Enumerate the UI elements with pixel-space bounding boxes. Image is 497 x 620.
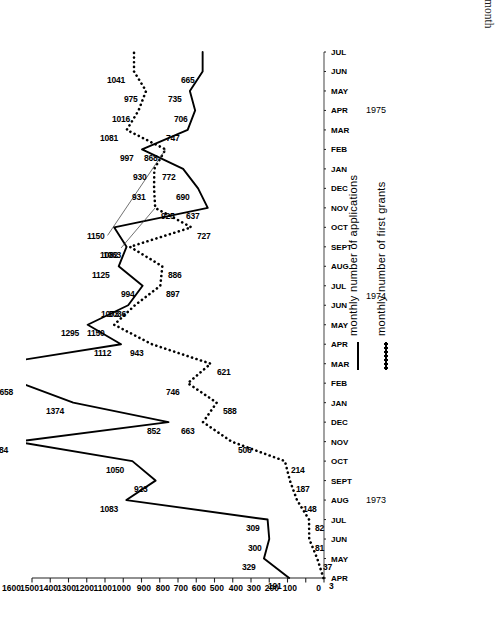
first-grants-value-label: 506 <box>238 445 252 455</box>
y-axis-tick-label: 700 <box>174 583 188 593</box>
first-grants-value-label: 1150 <box>87 328 105 338</box>
chart-axes <box>32 52 326 583</box>
x-axis-month-label: NOV <box>331 437 348 446</box>
first-grants-value-label: 943 <box>130 348 144 358</box>
x-axis-month-label: MAY <box>331 86 348 95</box>
first-grants-value-label: 930 <box>133 172 147 182</box>
first-grants-value-label: 81 <box>315 543 324 553</box>
chart-series <box>26 52 323 578</box>
y-axis-tick-label: 400 <box>228 583 242 593</box>
applications-value-label: 923 <box>134 484 148 494</box>
x-axis-month-label: MAR <box>331 359 349 368</box>
y-axis-tick-label: 600 <box>192 583 206 593</box>
x-axis-month-label: MAY <box>331 554 348 563</box>
y-axis-tick-label: 1300 <box>57 583 76 593</box>
first-grants-value-label: 82 <box>315 523 324 533</box>
applications-value-label: 994 <box>121 289 135 299</box>
x-axis-month-label: JUL <box>331 281 346 290</box>
applications-value-label: 1112 <box>94 348 111 358</box>
applications-value-label: 772 <box>162 172 176 182</box>
x-axis-year-label: 1973 <box>366 495 386 505</box>
x-axis-month-label: JUN <box>331 535 347 544</box>
x-axis-month-label: NOV <box>331 203 348 212</box>
applications-value-label: 329 <box>242 562 256 572</box>
first-grants-value-label: 3 <box>329 582 334 592</box>
applications-value-label: 706 <box>174 114 188 124</box>
x-axis-month-label: APR <box>331 340 348 349</box>
x-axis-month-label: JUL <box>331 515 346 524</box>
legend-label-applications: monthly number of applications <box>347 175 359 336</box>
line-chart: 1913293003091083923105016848521374165817… <box>26 44 326 584</box>
applications-value-label: 852 <box>147 426 161 436</box>
legend-label-first-grants: monthly number of first grants <box>375 181 387 336</box>
applications-value-label: 1125 <box>92 270 110 280</box>
y-axis-tick-label: 1500 <box>20 583 39 593</box>
applications-value-label: 1083 <box>100 504 118 514</box>
y-axis-tick-label: 300 <box>247 583 261 593</box>
y-axis-tick-label: 1400 <box>39 583 58 593</box>
x-axis-month-label: DEC <box>331 418 348 427</box>
first-grants-value-label: 148 <box>303 504 317 514</box>
y-axis-tick-label: 500 <box>210 583 224 593</box>
y-axis-tick-label: 200 <box>265 583 279 593</box>
x-axis-month-label: AUG <box>331 496 349 505</box>
first-grants-value-label: 1081 <box>100 133 118 143</box>
applications-value-label: 690 <box>176 192 190 202</box>
first-grants-value-label: 1063 <box>103 250 121 260</box>
x-axis-month-label: SEPT <box>331 476 352 485</box>
applications-value-label: 1050 <box>106 465 124 475</box>
x-axis-month-label: JAN <box>331 164 347 173</box>
legend-swatch-solid-line <box>357 342 359 370</box>
first-grants-value-label: 37 <box>323 562 332 572</box>
y-axis-tick-label: 900 <box>137 583 151 593</box>
y-axis-tick-label: 1100 <box>94 583 112 593</box>
applications-value-label: 747 <box>166 133 180 143</box>
first-grants-value-label: 1036 <box>108 309 126 319</box>
applications-value-label: 309 <box>246 523 260 533</box>
first-grants-value-label: 187 <box>296 484 310 494</box>
y-axis-tick-label: 1000 <box>112 583 131 593</box>
applications-value-label: 1295 <box>61 328 79 338</box>
applications-value-label: 300 <box>248 543 262 553</box>
first-grants-value-label: 663 <box>181 426 195 436</box>
x-axis-month-label: MAR <box>331 125 349 134</box>
figure-caption-text: The rate of growth in the Family Fund – … <box>467 0 496 28</box>
x-axis-month-label: APR <box>331 106 348 115</box>
applications-value-label: 1684 <box>0 445 8 455</box>
first-grants-value-label: 727 <box>197 231 211 241</box>
applications-value-label: 665 <box>181 75 195 85</box>
first-grants-value-label: 746 <box>166 387 180 397</box>
applications-value-label: 1658 <box>0 387 13 397</box>
applications-value-label: 1150 <box>87 231 105 241</box>
first-grants-value-label: 868 <box>144 153 158 163</box>
first-grants-value-label: 588 <box>223 406 237 416</box>
x-axis-month-label: FEB <box>331 145 347 154</box>
x-axis-month-label: JUN <box>331 67 347 76</box>
x-axis-month-label: MAY <box>331 320 348 329</box>
x-axis-month-label: DEC <box>331 184 348 193</box>
x-axis-month-label: JAN <box>331 398 347 407</box>
x-axis-month-label: OCT <box>331 223 348 232</box>
x-axis-month-label: OCT <box>331 457 348 466</box>
first-grants-value-label: 621 <box>217 367 231 377</box>
first-grants-value-label: 1041 <box>107 75 125 85</box>
first-grants-value-label: 975 <box>124 94 138 104</box>
applications-value-label: 735 <box>168 94 182 104</box>
x-axis-month-label: JUN <box>331 301 347 310</box>
x-axis-month-label: FEB <box>331 379 347 388</box>
x-axis-month-label: APR <box>331 574 348 583</box>
y-axis-tick-label: 100 <box>283 583 297 593</box>
applications-value-label: 1374 <box>46 406 64 416</box>
first-grants-value-label: 214 <box>291 465 305 475</box>
legend-swatch-dotted-line <box>384 342 388 370</box>
first-grants-value-label: 897 <box>166 289 180 299</box>
y-axis-tick-label: 1200 <box>75 583 94 593</box>
chart-legend: monthly number of applications monthly n… <box>348 110 404 370</box>
y-axis-tick-label: 1600 <box>2 583 21 593</box>
x-axis-month-label: JUL <box>331 48 346 57</box>
applications-value-label: 637 <box>186 211 200 221</box>
figure-caption: Figure 8 The rate of growth in the Famil… <box>464 0 497 34</box>
y-axis-tick-label: 800 <box>155 583 169 593</box>
chart-plot-area <box>26 44 326 584</box>
